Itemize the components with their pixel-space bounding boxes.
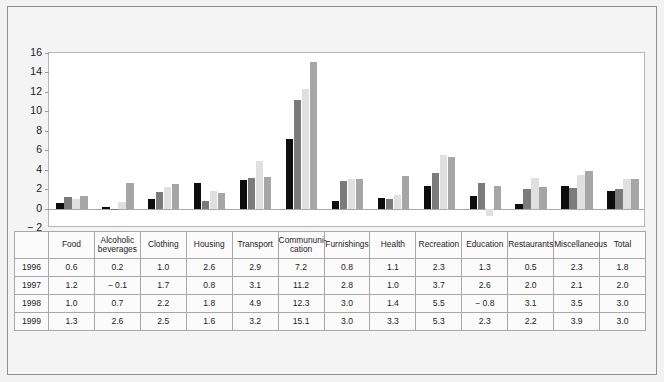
- table-column-header: Education: [462, 232, 508, 259]
- bar-1996: [332, 201, 339, 209]
- column-header-line1: Recreation: [416, 240, 461, 249]
- bar-group: [370, 53, 416, 226]
- y-axis-tick-12: 12: [30, 85, 42, 97]
- bar-1997: [248, 178, 255, 208]
- bar-group: [462, 53, 508, 226]
- column-header-line1: Miscellaneous: [554, 240, 599, 249]
- table-cell: 1.7: [140, 277, 186, 295]
- table-row: 19960.60.21.02.62.97.20.81.12.31.30.52.3…: [15, 259, 646, 277]
- bar-1996: [378, 198, 385, 209]
- bar-1998: [256, 161, 263, 209]
- bar-1999: [448, 157, 455, 209]
- table-cell: 1.6: [186, 313, 232, 331]
- table-cell: 1.0: [140, 259, 186, 277]
- table-cell: 1.0: [49, 295, 95, 313]
- table-cell: 2.0: [508, 277, 554, 295]
- bar-group: [141, 53, 187, 226]
- bar-1998: [118, 202, 125, 209]
- bar-1997: [64, 197, 71, 209]
- bar-group: [600, 53, 646, 226]
- bar-1997: [432, 173, 439, 209]
- bar-1999: [356, 179, 363, 208]
- bar-1997: [156, 192, 163, 209]
- table-header-row: FoodAlcoholicbeveragesClothingHousingTra…: [15, 232, 646, 259]
- bar-1999: [585, 171, 592, 209]
- table-cell: 2.1: [554, 277, 600, 295]
- bar-1998: [210, 191, 217, 209]
- bar-1999: [126, 183, 133, 208]
- table-cell: 5.3: [416, 313, 462, 331]
- table-column-header: Miscellaneous: [554, 232, 600, 259]
- bar-group: [49, 53, 95, 226]
- bar-1996: [515, 204, 522, 209]
- bar-1998: [623, 179, 630, 208]
- table-cell: 2.3: [462, 313, 508, 331]
- table-column-header: Recreation: [416, 232, 462, 259]
- y-axis-tick-2: 2: [36, 182, 42, 194]
- table-cell: 2.3: [416, 259, 462, 277]
- bar-1999: [80, 196, 87, 209]
- bar-group: [279, 53, 325, 226]
- table-cell: 7.2: [278, 259, 324, 277]
- table-cell: − 0.1: [94, 277, 140, 295]
- bar-1999: [310, 62, 317, 209]
- bar-1998: [531, 178, 538, 208]
- table-cell: 0.6: [49, 259, 95, 277]
- table-cell: 2.8: [324, 277, 370, 295]
- table-cell: 11.2: [278, 277, 324, 295]
- bar-1996: [148, 199, 155, 209]
- table-cell: 3.7: [416, 277, 462, 295]
- bar-group: [233, 53, 279, 226]
- table-cell: 1.8: [600, 259, 646, 277]
- bar-group: [95, 53, 141, 226]
- y-axis-tick-10: 10: [30, 104, 42, 116]
- row-year-label: 1999: [15, 313, 49, 331]
- bar-1998: [486, 209, 493, 217]
- table-cell: 0.5: [508, 259, 554, 277]
- bar-group: [325, 53, 371, 226]
- bar-1998: [348, 179, 355, 208]
- table-cell: 1.0: [370, 277, 416, 295]
- table-cell: 2.2: [140, 295, 186, 313]
- plot-region: [48, 52, 645, 227]
- bar-1999: [494, 186, 501, 208]
- table-column-header: Commununi-cation: [278, 232, 324, 259]
- bar-1996: [56, 203, 63, 209]
- column-header-line2: beverages: [95, 245, 140, 254]
- table-cell: 12.3: [278, 295, 324, 313]
- bar-1996: [470, 196, 477, 209]
- table-cell: 15.1: [278, 313, 324, 331]
- bar-1997: [110, 209, 117, 210]
- table-cell: 2.9: [232, 259, 278, 277]
- column-header-line1: Furnishings: [325, 240, 370, 249]
- table-column-header: Transport: [232, 232, 278, 259]
- y-axis-tick-16: 16: [30, 46, 42, 58]
- table-cell: 2.3: [554, 259, 600, 277]
- bar-1996: [561, 186, 568, 208]
- bar-1996: [240, 180, 247, 208]
- table-column-header: Alcoholicbeverages: [94, 232, 140, 259]
- bar-group: [554, 53, 600, 226]
- table-cell: 5.5: [416, 295, 462, 313]
- table-body: 19960.60.21.02.62.97.20.81.12.31.30.52.3…: [15, 259, 646, 331]
- table-cell: 0.8: [186, 277, 232, 295]
- bar-1998: [394, 195, 401, 209]
- plot-area: [48, 52, 645, 227]
- bar-1996: [607, 191, 614, 209]
- y-axis-tick-labels: − 20246810121416: [8, 52, 42, 227]
- table-cell: 2.6: [94, 313, 140, 331]
- bar-1997: [386, 199, 393, 209]
- table-row: 19971.2− 0.11.70.83.111.22.81.03.72.62.0…: [15, 277, 646, 295]
- row-year-label: 1998: [15, 295, 49, 313]
- y-axis-tick-14: 14: [30, 65, 42, 77]
- bar-1996: [102, 207, 109, 209]
- column-header-line1: Clothing: [141, 240, 186, 249]
- table-cell: 0.2: [94, 259, 140, 277]
- table-row: 19981.00.72.21.84.912.33.01.45.5− 0.83.1…: [15, 295, 646, 313]
- y-axis-tick-4: 4: [36, 163, 42, 175]
- column-header-line1: Restaurants: [508, 240, 553, 249]
- table-cell: 1.8: [186, 295, 232, 313]
- table-cell: 3.3: [370, 313, 416, 331]
- column-header-line2: cation: [279, 245, 324, 254]
- bar-1999: [172, 184, 179, 208]
